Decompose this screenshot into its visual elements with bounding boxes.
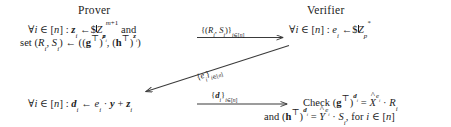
prover-step-3: ∀i ∈ [n] : di ← ei · y + zi xyxy=(28,97,132,109)
prover-step-1: ∀i ∈ [n] : zi ←$Zpm+1 and xyxy=(28,23,136,35)
verifier-step-1: ∀i ∈ [n] : ei ←$Zp* xyxy=(289,23,371,35)
prover-step-2: set (Ri, Si) ← ((g⊤)zi, (h⊤)zi) xyxy=(20,37,141,48)
protocol-diagram: Prover Verifier ∀i ∈ [n] : zi ←$Zpm+1 an… xyxy=(0,0,451,127)
verifier-step-3: and (h⊤)di = Yei · Si, for i ∈ [n] xyxy=(264,110,395,122)
message-label-response: {di}i∈[n] xyxy=(211,90,238,100)
party-title-prover: Prover xyxy=(78,4,110,16)
message-label-commitment: {(Ri, Si)}i∈[n] xyxy=(201,25,244,35)
verifier-step-2: Check (g⊤)di = Xei · Ri xyxy=(303,97,398,108)
party-title-verifier: Verifier xyxy=(307,4,345,16)
